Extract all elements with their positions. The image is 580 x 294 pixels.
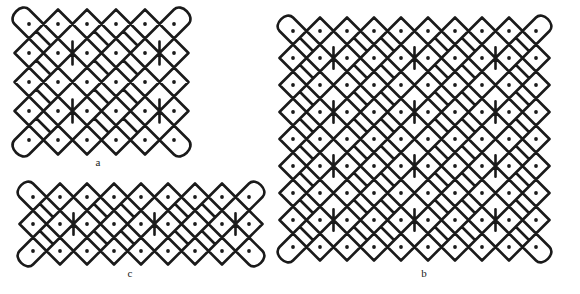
kolam-dot [112, 195, 116, 199]
figure-label-c: c [120, 267, 140, 279]
kolam-dot [372, 164, 376, 168]
kolam-dot [139, 222, 143, 226]
kolam-dot [27, 80, 31, 84]
kolam-dot [372, 83, 376, 87]
kolam-dot [143, 109, 147, 113]
kolam-dot [372, 110, 376, 114]
kolam-dot [372, 56, 376, 60]
kolam-dot [345, 218, 349, 222]
figure-label-b: b [414, 267, 434, 279]
kolam-loop-curves [12, 7, 190, 156]
kolam-dot [534, 56, 538, 60]
kolam-dot [345, 29, 349, 33]
kolam-dot [220, 222, 224, 226]
kolam-dot [172, 51, 176, 55]
kolam-dot [291, 110, 295, 114]
kolam-dot [114, 109, 118, 113]
kolam-dot [85, 80, 89, 84]
kolam-dot [114, 80, 118, 84]
kolam-dot [453, 29, 457, 33]
kolam-dot [480, 83, 484, 87]
kolam-dot [85, 22, 89, 26]
kolam-dot [58, 195, 62, 199]
kolam-dot [31, 195, 35, 199]
kolam-dot [58, 249, 62, 253]
kolam-dot [426, 110, 430, 114]
kolam-dot [534, 29, 538, 33]
kolam-dot [372, 245, 376, 249]
kolam-dot [220, 195, 224, 199]
kolam-dot [399, 164, 403, 168]
kolam-dot [453, 191, 457, 195]
kolam-dot [453, 83, 457, 87]
kolam-dot [507, 29, 511, 33]
kolam-dot [345, 245, 349, 249]
kolam-dot [58, 222, 62, 226]
kolam-dot [85, 222, 89, 226]
kolam-dot [56, 109, 60, 113]
kolam-dot [453, 137, 457, 141]
kolam-dot [85, 109, 89, 113]
kolam-dot [166, 195, 170, 199]
kolam-dot [318, 56, 322, 60]
kolam-dot [480, 218, 484, 222]
kolam-dot [534, 218, 538, 222]
kolam-dot [193, 195, 197, 199]
kolam-dot [172, 22, 176, 26]
kolam-dot [143, 22, 147, 26]
kolam-dot [480, 164, 484, 168]
kolam-dot [56, 138, 60, 142]
kolam-dot [534, 164, 538, 168]
kolam-dot [27, 138, 31, 142]
kolam-dot [345, 83, 349, 87]
kolam-dot [507, 137, 511, 141]
kolam-dot [318, 83, 322, 87]
kolam-dot [85, 195, 89, 199]
kolam-dot [139, 195, 143, 199]
kolam-dot [172, 138, 176, 142]
kolam-dot [85, 249, 89, 253]
kolam-dot [399, 218, 403, 222]
kolam-figure-a [14, 8, 189, 156]
kolam-dot [399, 245, 403, 249]
kolam-dot [291, 29, 295, 33]
kolam-dot [85, 138, 89, 142]
kolam-dot [85, 51, 89, 55]
kolam-dot [399, 137, 403, 141]
kolam-dot [56, 80, 60, 84]
kolam-dot [318, 245, 322, 249]
kolam-dot [372, 137, 376, 141]
kolam-dot [56, 22, 60, 26]
kolam-dot [291, 56, 295, 60]
kolam-dot [56, 51, 60, 55]
kolam-figure-c [18, 181, 264, 267]
kolam-dot [220, 249, 224, 253]
kolam-dot [27, 109, 31, 113]
kolam-dot [426, 137, 430, 141]
kolam-canvas-b [276, 14, 553, 264]
kolam-dot [193, 249, 197, 253]
kolam-dot [480, 56, 484, 60]
kolam-dot [318, 191, 322, 195]
kolam-dot [318, 137, 322, 141]
kolam-dot-lattice [31, 195, 251, 253]
kolam-dot [31, 249, 35, 253]
kolam-canvas-a [14, 8, 189, 156]
kolam-dot [453, 245, 457, 249]
figure-label-a: a [88, 156, 108, 168]
kolam-dot [345, 164, 349, 168]
kolam-dot [534, 110, 538, 114]
kolam-dot [372, 29, 376, 33]
kolam-dot [27, 51, 31, 55]
kolam-dot [426, 218, 430, 222]
kolam-dot [345, 56, 349, 60]
kolam-dot [291, 137, 295, 141]
kolam-figure-b [276, 14, 553, 264]
kolam-dot [399, 191, 403, 195]
kolam-dot [480, 29, 484, 33]
kolam-dot [291, 245, 295, 249]
kolam-dot [291, 83, 295, 87]
kolam-dot [27, 22, 31, 26]
kolam-dot [426, 83, 430, 87]
kolam-dot [114, 138, 118, 142]
